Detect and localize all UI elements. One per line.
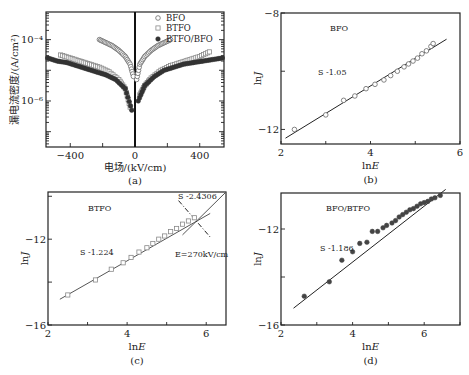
data-point-circle <box>395 69 400 74</box>
data-point-circle <box>323 113 328 118</box>
data-point-filled <box>393 218 398 223</box>
data-point-square <box>66 293 70 297</box>
data-point-square <box>93 278 97 282</box>
data-point-filled <box>433 196 438 201</box>
data-series <box>292 41 435 131</box>
data-point-square <box>163 234 167 238</box>
slope-annotation-low: S -1.224 <box>80 248 114 257</box>
data-point-circle <box>420 51 425 56</box>
data-point-square <box>180 222 184 226</box>
x-tick-label: −400 <box>57 150 84 161</box>
data-point-filled <box>375 229 380 234</box>
data-point-filled <box>357 241 362 246</box>
legend-label: BFO <box>166 13 185 23</box>
data-point-square <box>169 230 173 234</box>
data-point-filled <box>384 223 389 228</box>
panel-caption: (d) <box>363 355 377 366</box>
y-tick-label: −8 <box>264 8 279 19</box>
x-tick-label: 400 <box>190 150 209 161</box>
data-point-circle <box>431 41 436 46</box>
data-point-square <box>156 26 160 30</box>
data-point-filled <box>302 294 307 299</box>
data-point-circle <box>388 73 393 78</box>
data-point-circle <box>364 86 369 91</box>
legend-label: BTFO/BFO <box>166 34 213 44</box>
data-point-square <box>186 219 190 223</box>
data-point-square <box>157 237 161 241</box>
y-tick-label: −16 <box>25 320 46 331</box>
x-axis-label: lnE <box>129 341 147 352</box>
panel-caption: (b) <box>363 174 377 185</box>
data-point-circle <box>424 49 429 54</box>
panel-b-bfo-lnj-lne: 246−12−8lnE(b)lnJBFOS -1.05 <box>252 8 463 185</box>
data-point-circle <box>353 94 358 99</box>
data-point-square <box>151 241 155 245</box>
y-axis-label: lnJ <box>252 71 263 86</box>
x-tick-label: 6 <box>203 328 209 339</box>
data-point-circle <box>415 56 420 61</box>
data-point-filled <box>327 280 332 285</box>
data-point-circle <box>341 98 346 103</box>
x-tick-label: 2 <box>278 147 284 158</box>
x-axis-label: 电场/(kV/cm) <box>104 161 167 173</box>
figure: 10⁻⁴10⁻⁶−4000400BFOBTFOBTFO/BFO电场/(kV/cm… <box>0 0 469 375</box>
data-point-circle <box>382 78 387 83</box>
data-point-square <box>174 226 178 230</box>
data-point-square <box>192 216 196 220</box>
panel-c-btfo-lnj-lne: 246−12−16lnE(c)lnJBTFOS -1.224S -2.4306E… <box>19 192 229 366</box>
data-point-filled <box>127 99 132 104</box>
data-point-square <box>121 261 125 265</box>
x-tick-label: 6 <box>457 147 463 158</box>
plot-frame <box>281 193 460 325</box>
panel-d-bfo-btfo-lnj-lne: 246−12−16lnE(d)lnJBFO/BTFOS -1.186 <box>252 189 460 366</box>
x-tick-label: 4 <box>367 147 373 158</box>
y-tick-label: −12 <box>258 124 279 135</box>
x-tick-label: 4 <box>124 328 130 339</box>
slope-annotation: S -1.186 <box>320 244 354 253</box>
data-point-square <box>137 250 141 254</box>
x-axis-label: lnE <box>362 341 380 352</box>
data-point-square <box>109 267 113 271</box>
crossover-field-annotation: E=270kV/cm <box>175 250 229 259</box>
slope-annotation-high: S -2.4306 <box>178 192 217 201</box>
data-point-filled <box>156 37 161 42</box>
data-point-filled <box>438 193 443 198</box>
data-point-filled <box>123 86 128 91</box>
data-point-circle <box>411 59 416 64</box>
y-axis-label: 漏电流密度/(A/cm²) <box>8 34 20 125</box>
data-point-circle <box>292 127 297 132</box>
data-point-circle <box>406 62 411 67</box>
x-axis-label: lnE <box>362 160 380 171</box>
data-point-filled <box>124 91 129 96</box>
series-title: BFO/BTFO <box>326 204 370 213</box>
data-point-circle <box>156 16 161 21</box>
data-point-filled <box>340 258 345 263</box>
data-point-square <box>129 255 133 259</box>
legend-label: BTFO <box>166 23 191 33</box>
panel-a-leakage-current: 10⁻⁴10⁻⁶−4000400BFOBTFOBTFO/BFO电场/(kV/cm… <box>8 12 225 186</box>
series-title: BTFO <box>88 204 112 213</box>
x-tick-label: 4 <box>349 328 355 339</box>
data-point-filled <box>129 108 134 113</box>
data-point-filled <box>126 95 131 100</box>
x-tick-label: 0 <box>132 150 138 161</box>
data-point-circle <box>402 65 407 70</box>
y-axis-label: lnJ <box>19 251 30 266</box>
y-tick-label: −12 <box>25 234 46 245</box>
x-tick-label: 6 <box>421 328 427 339</box>
series-title: BFO <box>330 24 348 33</box>
y-tick-label: 10⁻⁴ <box>21 34 43 45</box>
slope-annotation: S -1.05 <box>318 68 347 77</box>
data-point-square <box>145 246 149 250</box>
data-point-filled <box>128 104 133 109</box>
y-tick-label: −12 <box>258 224 279 235</box>
data-point-circle <box>373 82 378 87</box>
panel-caption: (a) <box>128 175 142 186</box>
data-point-filled <box>365 240 370 245</box>
y-axis-label: lnJ <box>252 251 263 266</box>
data-point-square <box>207 50 211 54</box>
data-point-filled <box>370 229 375 234</box>
y-tick-label: −16 <box>258 320 279 331</box>
data-point-filled <box>220 56 225 61</box>
y-tick-label: 10⁻⁶ <box>21 95 43 106</box>
